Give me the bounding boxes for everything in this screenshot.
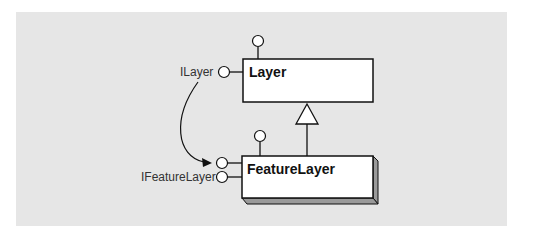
featurelayer-top-lollipop-icon xyxy=(255,131,266,157)
diagram-canvas xyxy=(0,0,547,237)
layer-top-lollipop-icon xyxy=(253,36,264,60)
ilayer-label: ILayer xyxy=(180,65,213,79)
layer-class-label: Layer xyxy=(249,64,286,80)
featurelayer-class-label: FeatureLayer xyxy=(247,161,335,177)
ifeaturelayer-label: IFeatureLayer xyxy=(141,170,216,184)
ilayer-lollipop-icon xyxy=(219,67,244,78)
inheritance-arrow-icon xyxy=(296,104,318,156)
curved-arrow-icon xyxy=(181,82,212,167)
inherited-ilayer-lollipop-icon xyxy=(217,158,243,169)
ifeaturelayer-lollipop-icon xyxy=(217,172,243,183)
